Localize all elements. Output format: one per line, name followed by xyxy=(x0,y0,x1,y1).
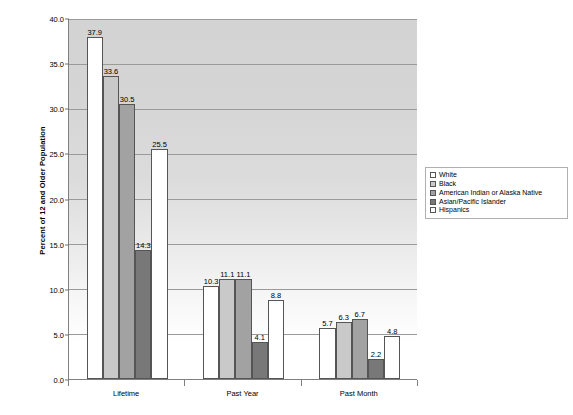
bar-value-label: 14.3 xyxy=(136,241,151,250)
y-axis-tick-mark xyxy=(65,64,69,65)
gridline xyxy=(69,19,417,20)
plot-area: 0.05.010.015.020.025.030.035.040.037.933… xyxy=(68,19,417,380)
y-axis-tick-label: 5.0 xyxy=(54,330,64,339)
bar: 37.9 xyxy=(87,37,103,379)
bar-value-label: 5.7 xyxy=(322,319,332,328)
bar: 6.7 xyxy=(352,319,368,379)
bar-chart: Percent of 12 and Older Population 0.05.… xyxy=(0,0,573,415)
category-separator xyxy=(417,380,418,386)
bar: 25.5 xyxy=(151,149,167,379)
bar-value-label: 6.3 xyxy=(338,313,348,322)
bar-value-label: 10.3 xyxy=(204,277,219,286)
legend-item-label: Asian/Pacific Islander xyxy=(439,198,506,206)
legend-swatch-icon xyxy=(430,207,436,213)
legend-item-label: White xyxy=(439,171,457,179)
legend-item-label: American Indian or Alaska Native xyxy=(439,189,542,197)
legend-item: Asian/Pacific Islander xyxy=(430,197,564,205)
bar: 5.7 xyxy=(319,328,335,379)
bar-value-label: 2.2 xyxy=(371,350,381,359)
y-axis-tick-mark xyxy=(65,244,69,245)
legend-swatch-icon xyxy=(430,190,436,196)
y-axis-tick-label: 40.0 xyxy=(49,15,64,24)
y-axis-tick-label: 25.0 xyxy=(49,150,64,159)
bar-value-label: 11.1 xyxy=(220,270,234,279)
category-separator xyxy=(68,380,69,386)
legend-item: White xyxy=(430,171,564,179)
x-axis-category-label: Lifetime xyxy=(113,389,139,398)
y-axis-tick-label: 20.0 xyxy=(49,195,64,204)
gridline xyxy=(69,64,417,65)
legend-item: Black xyxy=(430,180,564,188)
bar-value-label: 33.6 xyxy=(104,67,119,76)
bar: 6.3 xyxy=(336,322,352,379)
bar: 11.1 xyxy=(219,279,235,379)
y-axis-tick-label: 10.0 xyxy=(49,285,64,294)
x-axis-category-label: Past Month xyxy=(340,389,378,398)
bar-value-label: 30.5 xyxy=(120,95,135,104)
bar: 4.8 xyxy=(384,336,400,379)
category-separator xyxy=(301,380,302,386)
y-axis-tick-label: 35.0 xyxy=(49,60,64,69)
legend-swatch-icon xyxy=(430,199,436,205)
y-axis-tick-mark xyxy=(65,199,69,200)
bar-value-label: 4.1 xyxy=(254,333,264,342)
legend-item: American Indian or Alaska Native xyxy=(430,189,564,197)
category-separator xyxy=(184,380,185,386)
bar: 14.3 xyxy=(135,250,151,379)
bar-value-label: 4.8 xyxy=(387,327,397,336)
bar: 10.3 xyxy=(203,286,219,379)
legend-swatch-icon xyxy=(430,181,436,187)
legend-item-label: Black xyxy=(439,180,456,188)
legend-item-label: Hispanics xyxy=(439,206,469,214)
y-axis-title: Percent of 12 and Older Population xyxy=(38,71,47,311)
bar-value-label: 11.1 xyxy=(236,270,250,279)
bar: 4.1 xyxy=(252,342,268,379)
x-axis-category-label: Past Year xyxy=(226,389,258,398)
bar-value-label: 37.9 xyxy=(87,28,102,37)
bar: 30.5 xyxy=(119,104,135,379)
y-axis-tick-mark xyxy=(65,289,69,290)
bar-value-label: 25.5 xyxy=(152,140,167,149)
bar: 8.8 xyxy=(268,300,284,379)
legend-item: Hispanics xyxy=(430,206,564,214)
y-axis-tick-label: 15.0 xyxy=(49,240,64,249)
bar-value-label: 8.8 xyxy=(271,291,281,300)
y-axis-tick-mark xyxy=(65,334,69,335)
bar-value-label: 6.7 xyxy=(355,310,365,319)
y-axis-tick-mark xyxy=(65,109,69,110)
chart-legend: WhiteBlackAmerican Indian or Alaska Nati… xyxy=(425,167,568,219)
y-axis-tick-mark xyxy=(65,19,69,20)
y-axis-tick-label: 30.0 xyxy=(49,105,64,114)
legend-swatch-icon xyxy=(430,172,436,178)
bar: 33.6 xyxy=(103,76,119,379)
y-axis-tick-label: 0.0 xyxy=(54,376,64,385)
y-axis-tick-mark xyxy=(65,154,69,155)
bar: 2.2 xyxy=(368,359,384,379)
bar: 11.1 xyxy=(235,279,251,379)
